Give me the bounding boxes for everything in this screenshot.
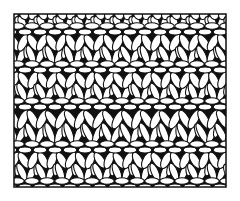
stitch-rows [0,7,240,190]
stitch-pattern-figure [0,0,240,201]
